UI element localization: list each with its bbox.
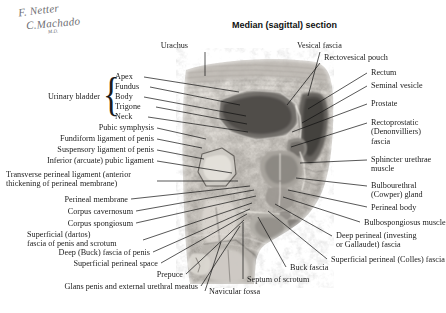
- label-inferior-arcuate-pubic-ligament: Inferior (arcuate) pubic ligament: [2, 156, 154, 165]
- label-pubic-symphysis: Pubic symphysis: [20, 123, 154, 132]
- label-apex: Apex: [115, 72, 133, 81]
- label-superficial-perineal-colles-fascia: Superficial perineal (Colles) fascia: [331, 255, 445, 264]
- label-corpus-cavernosum: Corpus cavernosum: [20, 207, 133, 216]
- anatomy-plate-canvas: [176, 48, 334, 288]
- label-urinary-bladder: Urinary bladder: [20, 92, 100, 101]
- label-trigone: Trigone: [115, 102, 141, 111]
- label-prepuce: Prepuce: [120, 270, 183, 279]
- label-septum-of-scrotum: Septum of scrotum: [247, 275, 309, 284]
- label-superficial-perineal-space: Superficial perineal space: [36, 259, 158, 268]
- anatomy-plate: [176, 48, 334, 288]
- label-deep-perineal-fascia: Deep perineal (investing or Gallaudet) f…: [336, 231, 416, 250]
- label-rectoprostatic-fascia: Rectoprostatic (Denonvilliers) fascia: [371, 118, 421, 146]
- label-navicular-fossa: Navicular fossa: [209, 287, 260, 296]
- signature-credential: M.D.: [48, 29, 59, 35]
- label-urachus: Urachus: [128, 41, 188, 50]
- label-vesical-fascia: Vesical fascia: [297, 41, 342, 50]
- label-seminal-vesicle: Seminal vesicle: [371, 81, 423, 90]
- signature-netter: F. Netter: [17, 2, 59, 19]
- label-superficial-dartos-fascia: Superficial (dartos) fascia of penis and…: [27, 230, 117, 249]
- label-glans-penis: Glans penis and external urethral meatus: [22, 282, 198, 291]
- label-rectovesical-pouch: Rectovesical pouch: [324, 53, 388, 62]
- figure-title: Median (sagittal) section: [232, 20, 337, 30]
- label-prostate: Prostate: [371, 99, 397, 108]
- label-bulbospongiosus-muscle: Bulbospongiosus muscle: [364, 218, 446, 227]
- label-fundus: Fundus: [115, 82, 139, 91]
- urinary-bladder-brace: {: [103, 72, 110, 120]
- label-buck-fascia-bottom: Buck fascia: [290, 263, 328, 272]
- label-neck: Neck: [115, 112, 132, 121]
- label-perineal-body: Perineal body: [371, 203, 416, 212]
- label-fundiform-ligament: Fundiform ligament of penis: [14, 134, 154, 143]
- label-sphincter-urethrae-muscle: Sphincter urethrae muscle: [371, 155, 431, 174]
- label-corpus-spongiosum: Corpus spongiosum: [20, 219, 133, 228]
- label-rectum: Rectum: [371, 68, 396, 77]
- label-deep-buck-fascia: Deep (Buck) fascia of penis: [26, 248, 150, 257]
- label-suspensory-ligament: Suspensory ligament of penis: [14, 145, 154, 154]
- label-transverse-perineal-ligament: Transverse perineal ligament (anterior t…: [6, 170, 131, 189]
- label-perineal-membrane: Perineal membrane: [20, 195, 128, 204]
- label-body: Body: [115, 92, 133, 101]
- signature-machado: C.Machado: [26, 15, 81, 32]
- label-bulbourethral-gland: Bulbourethral (Cowper) gland: [371, 181, 423, 200]
